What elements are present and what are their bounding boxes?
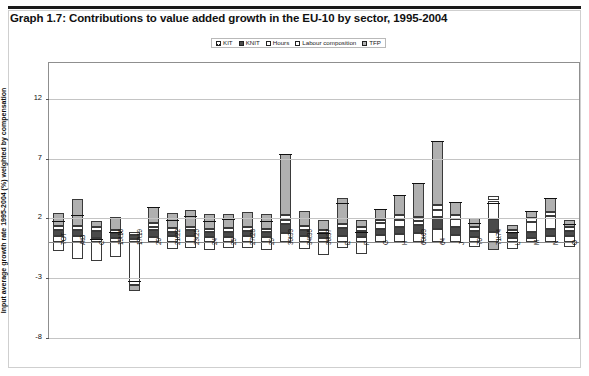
- bar-segment-knit: [91, 231, 102, 238]
- bar-stack[interactable]: [526, 63, 537, 338]
- bar-total-marker: [184, 216, 197, 217]
- bar-total-marker: [317, 233, 330, 234]
- bar-stack[interactable]: [185, 63, 196, 338]
- legend-label-knit: KNIT: [246, 40, 260, 46]
- bar-segment-tfp: [507, 225, 518, 230]
- bar-stack[interactable]: [110, 63, 121, 338]
- y-tick-label: 12: [34, 93, 42, 102]
- bar-segment-tfp: [488, 242, 499, 250]
- bar-segment-knit: [526, 232, 537, 237]
- y-tick-label: 7: [38, 153, 42, 162]
- bar-segment-hours: [280, 220, 291, 224]
- bar-segment-hours: [318, 242, 329, 255]
- bar-stack[interactable]: [280, 63, 291, 338]
- bar-stack[interactable]: [261, 63, 272, 338]
- bar-segment-lc: [129, 232, 140, 235]
- legend-label-labour-composition: Labour composition: [302, 40, 356, 46]
- bar-segment-lc: [299, 226, 310, 230]
- bar-stack[interactable]: [394, 63, 405, 338]
- bar-segment-tfp: [148, 207, 159, 223]
- bar-stack[interactable]: [53, 63, 64, 338]
- bar-stack[interactable]: [356, 63, 367, 338]
- bar-stack[interactable]: [413, 63, 424, 338]
- legend-label-hours: Hours: [273, 40, 290, 46]
- legend-swatch-tfp-icon: [362, 41, 367, 46]
- bar-segment-knit: [413, 225, 424, 233]
- bar-segment-tfp: [53, 213, 64, 226]
- bar-stack[interactable]: [337, 63, 348, 338]
- bar-segment-lc: [242, 227, 253, 231]
- bar-total-marker: [468, 223, 481, 224]
- bar-stack[interactable]: [129, 63, 140, 338]
- y-tick-label: -8: [35, 332, 42, 341]
- bar-segment-lc: [261, 229, 272, 233]
- bar-segment-tfp: [356, 220, 367, 227]
- bar-total-marker: [374, 209, 387, 210]
- legend-item-hours: Hours: [266, 40, 290, 46]
- bar-segment-knit: [53, 230, 64, 235]
- bar-segment-lc: [375, 220, 386, 224]
- bar-stack[interactable]: [299, 63, 310, 338]
- bar-stack[interactable]: [375, 63, 386, 338]
- bar-segment-lc: [223, 228, 234, 232]
- bar-segment-kit: [337, 236, 348, 243]
- bar-segment-lc: [53, 226, 64, 230]
- bar-total-marker: [109, 232, 122, 233]
- bar-stack[interactable]: [318, 63, 329, 338]
- bar-segment-tfp: [280, 154, 291, 215]
- bar-total-marker: [203, 221, 216, 222]
- legend-item-labour-composition: Labour composition: [295, 40, 356, 46]
- bar-total-marker: [279, 154, 292, 155]
- bar-stack[interactable]: [204, 63, 215, 338]
- bar-segment-knit: [450, 227, 461, 235]
- bar-segment-knit: [375, 229, 386, 236]
- bar-segment-tfp: [394, 195, 405, 216]
- bar-stack[interactable]: [507, 63, 518, 338]
- bar-segment-knit: [204, 232, 215, 237]
- bar-segment-tfp: [242, 212, 253, 228]
- bar-total-marker: [260, 221, 273, 222]
- bar-segment-knit: [242, 231, 253, 236]
- bar-segment-hours: [72, 242, 83, 259]
- bar-segment-lc: [432, 205, 443, 210]
- gridline: [49, 218, 579, 219]
- bar-segment-knit: [261, 232, 272, 237]
- bar-stack[interactable]: [488, 63, 499, 338]
- bar-stack[interactable]: [167, 63, 178, 338]
- bar-segment-hours: [356, 242, 367, 254]
- bar-segment-tfp: [318, 220, 329, 230]
- bar-total-marker: [147, 207, 160, 208]
- bar-stack[interactable]: [72, 63, 83, 338]
- bar-segment-knit: [488, 219, 499, 232]
- bar-total-marker: [431, 141, 444, 142]
- bar-stack[interactable]: [91, 63, 102, 338]
- bar-segment-knit: [72, 230, 83, 237]
- bar-segment-knit: [299, 230, 310, 237]
- bar-stack[interactable]: [564, 63, 575, 338]
- bar-total-marker: [128, 281, 141, 282]
- bar-segment-hours: [432, 210, 443, 217]
- bar-total-marker: [487, 203, 500, 204]
- bar-stack[interactable]: [469, 63, 480, 338]
- bar-segment-tfp: [413, 183, 424, 217]
- bar-segment-lc: [72, 226, 83, 230]
- bar-stack[interactable]: [148, 63, 159, 338]
- bar-segment-kit: [280, 233, 291, 243]
- bar-segment-hours: [526, 222, 537, 232]
- bar-stack[interactable]: [242, 63, 253, 338]
- bar-segment-knit: [185, 230, 196, 236]
- bar-stack[interactable]: [223, 63, 234, 338]
- bar-segment-kit: [53, 236, 64, 243]
- bar-segment-tfp: [526, 211, 537, 218]
- bar-segment-kit: [375, 235, 386, 242]
- bar-segment-lc: [337, 224, 348, 228]
- bar-stack[interactable]: [450, 63, 461, 338]
- bar-segment-lc: [185, 227, 196, 231]
- y-tick-label: -3: [35, 272, 42, 281]
- bar-segment-tfp: [337, 198, 348, 225]
- bar-total-marker: [393, 195, 406, 196]
- y-tick-mark: [46, 159, 49, 160]
- y-tick-mark: [46, 99, 49, 100]
- bar-stack[interactable]: [545, 63, 556, 338]
- bar-stack[interactable]: [432, 63, 443, 338]
